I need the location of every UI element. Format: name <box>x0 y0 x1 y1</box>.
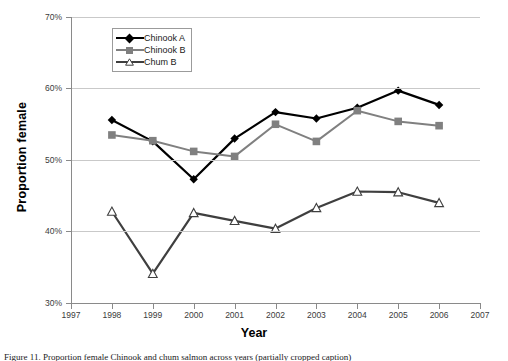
x-tick-label-1998: 1998 <box>92 310 132 320</box>
x-tick-label-2003: 2003 <box>296 310 336 320</box>
y-tick-label-50: 50% <box>28 156 62 165</box>
x-tick-label-2001: 2001 <box>215 310 255 320</box>
x-tick-mark-2001 <box>235 304 236 309</box>
data-point <box>435 101 443 109</box>
y-tick-mark-70 <box>66 17 71 18</box>
gridline-50 <box>71 160 480 161</box>
x-tick-mark-2004 <box>357 304 358 309</box>
diamond-marker-icon <box>125 34 135 44</box>
legend-label-chinook-b: Chinook B <box>144 44 186 56</box>
data-point <box>435 122 443 130</box>
chart-legend: Chinook A Chinook B Chum B <box>112 28 192 72</box>
y-tick-label-70: 70% <box>28 13 62 22</box>
x-tick-label-1997: 1997 <box>51 310 91 320</box>
y-tick-label-30: 30% <box>28 299 62 308</box>
legend-swatch-chum-b <box>116 56 144 68</box>
series-chinook-a <box>108 86 444 183</box>
x-tick-label-2007: 2007 <box>460 310 500 320</box>
x-tick-mark-2007 <box>480 304 481 309</box>
data-point <box>108 116 116 124</box>
legend-item-chinook-b: Chinook B <box>116 44 186 56</box>
legend-swatch-chinook-b <box>116 44 144 56</box>
gridline-40 <box>71 231 480 232</box>
series-chum-b <box>108 187 444 277</box>
data-point <box>394 118 402 126</box>
x-tick-mark-1999 <box>153 304 154 309</box>
x-tick-label-1999: 1999 <box>133 310 173 320</box>
gridline-70 <box>71 17 480 18</box>
x-tick-label-2004: 2004 <box>337 310 377 320</box>
chart-canvas: 70% 60% 50% 40% 30% 19971998199920002001… <box>0 0 508 340</box>
x-tick-mark-2003 <box>316 304 317 309</box>
x-tick-mark-2002 <box>276 304 277 309</box>
x-tick-mark-1997 <box>71 304 72 309</box>
data-point <box>354 107 362 115</box>
square-marker-icon <box>126 47 133 54</box>
y-axis-line <box>71 17 72 304</box>
x-tick-label-2002: 2002 <box>256 310 296 320</box>
gridline-60 <box>71 88 480 89</box>
data-point <box>108 207 117 215</box>
chart-figure: 70% 60% 50% 40% 30% 19971998199920002001… <box>0 0 508 361</box>
legend-swatch-chinook-a <box>116 32 144 44</box>
x-tick-mark-2000 <box>194 304 195 309</box>
legend-label-chinook-a: Chinook A <box>144 32 185 44</box>
data-point <box>149 137 157 145</box>
data-point <box>272 120 280 128</box>
y-axis-title: Proportion female <box>15 57 29 257</box>
x-tick-label-2005: 2005 <box>378 310 418 320</box>
y-tick-mark-40 <box>66 231 71 232</box>
y-tick-label-40: 40% <box>28 227 62 236</box>
x-tick-label-2000: 2000 <box>174 310 214 320</box>
triangle-marker-icon <box>125 58 134 66</box>
legend-item-chum-b: Chum B <box>116 56 186 68</box>
legend-label-chum-b: Chum B <box>144 56 177 68</box>
data-point <box>312 114 320 122</box>
x-tick-mark-2005 <box>398 304 399 309</box>
data-point <box>108 131 116 139</box>
x-tick-label-2006: 2006 <box>419 310 459 320</box>
legend-item-chinook-a: Chinook A <box>116 32 186 44</box>
y-tick-mark-60 <box>66 88 71 89</box>
x-axis-title: Year <box>0 326 508 340</box>
x-tick-mark-1998 <box>112 304 113 309</box>
figure-caption: Figure 11. Proportion female Chinook and… <box>0 352 508 361</box>
y-tick-mark-50 <box>66 160 71 161</box>
y-tick-label-60: 60% <box>28 84 62 93</box>
x-tick-mark-2006 <box>439 304 440 309</box>
data-point <box>313 138 321 146</box>
data-point <box>190 148 198 156</box>
